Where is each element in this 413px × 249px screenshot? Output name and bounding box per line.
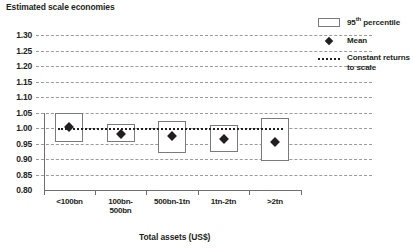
legend-percentile-value: 95 [347,18,356,27]
cat-label-3-line1: 1tn-2tn [198,197,249,206]
gridline-0-95 [36,144,372,145]
cat-label-4: >2tn [249,197,301,206]
cat-label-2-line1: 500bn-1tn [146,197,198,206]
xtick-2 [146,190,147,195]
legend-constant-returns-line2: to scale [347,63,410,73]
cat-label-1: 100bn- 500bn [95,197,146,215]
legend-label-constant-returns: Constant returns to scale [347,53,410,72]
legend-swatch-percentile-box [318,18,340,27]
y-axis-line [44,113,45,191]
cat-label-0: <100bn [44,197,95,206]
xtick-1 [95,190,96,195]
cat-label-4-line1: >2tn [249,197,301,206]
xtick-3 [198,190,199,195]
x-axis-title: Total assets (US$) [139,232,210,242]
gridline-1-15 [36,82,372,83]
gridline-1-25 [36,51,372,52]
cat-label-2: 500bn-1tn [146,197,198,206]
cat-label-1-line1: 100bn- [95,197,146,206]
xtick-5 [301,190,302,195]
legend-constant-returns-line1: Constant returns [347,53,410,63]
xtick-4 [249,190,250,195]
legend-swatch-constant-returns-line [318,58,340,60]
gridline-0-90 [36,159,372,160]
legend-percentile-suffix: percentile [361,18,400,27]
legend-label-mean: Mean [347,36,367,46]
scale-economies-chart: Estimated scale economies 1.30 1.25 1.20… [0,0,413,249]
legend-label-percentile: 95th percentile [347,18,400,28]
x-axis-line [44,190,301,191]
cat-label-0-line1: <100bn [44,197,95,206]
cat-label-3: 1tn-2tn [198,197,249,206]
chart-title: Estimated scale economies [6,2,115,12]
gridline-1-20 [36,66,372,67]
gridline-0-85 [36,175,372,176]
legend-swatch-mean-diamond [325,37,333,45]
cat-label-1-line2: 500bn [95,206,146,215]
gridline-1-10 [36,97,372,98]
gridline-1-30 [36,35,372,36]
xtick-0 [44,190,45,195]
gridline-1-05 [36,113,372,114]
constant-returns-line [58,128,283,130]
